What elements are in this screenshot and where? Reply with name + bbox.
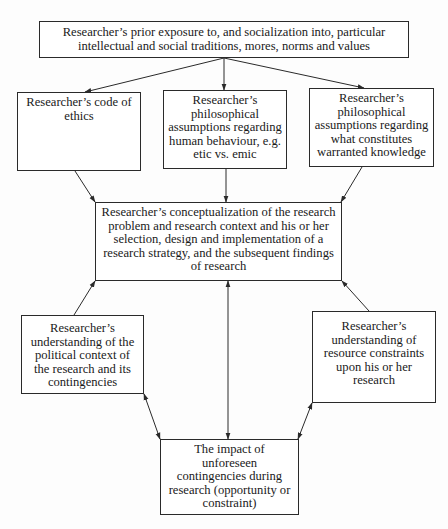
node-unforeseen-contingencies: The impact of unforeseen contingencies d… (160, 439, 299, 515)
node-text-line: intellectual and social traditions, more… (43, 40, 405, 54)
node-text-line: selection, design and implementation of … (99, 233, 338, 247)
node-text-line: the research and its (25, 363, 140, 377)
node-text-line: Researcher’s (313, 92, 430, 106)
diagram-canvas: Researcher’s prior exposure to, and soci… (0, 0, 448, 529)
node-text-line: Researcher’s code of (21, 96, 137, 110)
node-text-line: unforeseen (164, 457, 295, 471)
node-text-line: ethics (21, 110, 137, 124)
node-prior-exposure: Researcher’s prior exposure to, and soci… (39, 21, 409, 58)
arrow-political-impact-bidirectional (144, 394, 160, 439)
arrow-resource-impact-bidirectional (298, 403, 312, 439)
node-text-line: research (316, 374, 432, 388)
node-text-line: political context of (25, 349, 140, 363)
node-text-line: what constitutes (313, 133, 430, 147)
arrow-top-to-knowledge (224, 58, 364, 88)
node-human-behaviour-assumptions: Researcher’s philosophical assumptions r… (163, 90, 287, 169)
node-text-line: Researcher’s (167, 94, 283, 108)
node-text-line: research (opportunity or (164, 484, 295, 498)
node-text-line: upon his or her (316, 361, 432, 375)
node-text-line: warranted knowledge (313, 146, 430, 160)
node-research-conceptualization: Researcher’s conceptualization of the re… (95, 202, 342, 281)
arrow-resource-to-center (342, 281, 369, 311)
node-text-line: assumptions regarding (313, 119, 430, 133)
node-text-line: etic vs. emic (167, 148, 283, 162)
node-text-line: Researcher’s (316, 320, 432, 334)
node-text-line: research strategy, and the subsequent fi… (99, 247, 338, 261)
node-text-line: problem and research context and his or … (99, 220, 338, 234)
node-text-line: Researcher’s prior exposure to, and soci… (43, 26, 405, 40)
node-text-line: of research (99, 260, 338, 274)
node-text-line: Researcher’s conceptualization of the re… (99, 206, 338, 220)
node-text-line: understanding of the (25, 336, 140, 350)
arrow-ethics-to-center (75, 171, 95, 202)
node-text-line: Researcher’s (25, 322, 140, 336)
node-text-line: human behaviour, e.g. (167, 135, 283, 149)
node-text-line: philosophical (167, 108, 283, 122)
node-text-line: constraint) (164, 497, 295, 511)
node-text-line: assumptions regarding (167, 121, 283, 135)
node-text-line: contingencies during (164, 470, 295, 484)
node-code-of-ethics: Researcher’s code of ethics (17, 92, 141, 171)
arrow-knowledge-to-center (341, 167, 362, 202)
arrow-top-to-ethics (85, 58, 224, 92)
node-resource-constraints: Researcher’s understanding of resource c… (312, 311, 436, 403)
node-political-context: Researcher’s understanding of the politi… (21, 315, 144, 394)
node-text-line: contingencies (25, 376, 140, 390)
node-text-line: understanding of (316, 334, 432, 348)
node-text-line: The impact of (164, 443, 295, 457)
node-text-line: resource constraints (316, 347, 432, 361)
node-warranted-knowledge-assumptions: Researcher’s philosophical assumptions r… (309, 88, 434, 167)
node-text-line: philosophical (313, 106, 430, 120)
arrow-political-to-center (74, 281, 95, 315)
